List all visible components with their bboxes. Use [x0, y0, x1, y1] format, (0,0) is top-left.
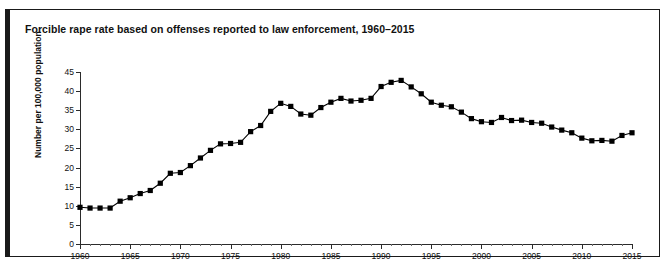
x-tick: [80, 244, 81, 249]
x-tick-minor: [100, 244, 101, 246]
data-point: [469, 116, 474, 121]
data-point: [258, 123, 263, 128]
data-point: [389, 80, 394, 85]
data-series-rape-rate: [80, 72, 632, 244]
data-point: [429, 100, 434, 105]
data-point: [479, 119, 484, 124]
data-point: [278, 101, 283, 106]
x-tick-label: 2005: [522, 252, 541, 261]
x-tick-minor: [572, 244, 573, 246]
figure-container: FIGURE 11 Forcible rape rate based on of…: [0, 0, 666, 262]
x-tick-label: 2015: [623, 252, 642, 261]
data-point: [499, 115, 504, 120]
data-point: [248, 129, 253, 134]
data-point: [569, 130, 574, 135]
x-tick: [331, 244, 332, 249]
data-point: [619, 133, 624, 138]
x-tick: [632, 244, 633, 249]
data-point: [318, 105, 323, 110]
x-tick-minor: [321, 244, 322, 246]
data-point: [358, 98, 363, 103]
data-point: [198, 155, 203, 160]
x-tick-label: 1965: [121, 252, 140, 261]
x-tick-minor: [361, 244, 362, 246]
x-tick-minor: [351, 244, 352, 246]
data-point: [419, 91, 424, 96]
data-point: [328, 100, 333, 105]
x-tick-minor: [110, 244, 111, 246]
y-tick-label: 45: [65, 68, 74, 77]
x-tick-label: 1970: [171, 252, 190, 261]
x-tick-label: 1985: [321, 252, 340, 261]
x-tick-minor: [200, 244, 201, 246]
data-point: [77, 205, 82, 210]
data-point: [539, 121, 544, 126]
data-point: [128, 195, 133, 200]
x-tick-minor: [251, 244, 252, 246]
data-point: [509, 118, 514, 123]
x-axis-line: [80, 244, 632, 245]
x-tick-minor: [612, 244, 613, 246]
x-tick-minor: [190, 244, 191, 246]
y-tick-label: 40: [65, 87, 74, 96]
x-tick-minor: [512, 244, 513, 246]
x-tick: [381, 244, 382, 249]
data-point: [97, 205, 102, 210]
data-point: [368, 96, 373, 101]
data-point: [529, 120, 534, 125]
data-point: [218, 141, 223, 146]
x-tick-label: 1975: [221, 252, 240, 261]
x-tick-minor: [341, 244, 342, 246]
data-point: [178, 170, 183, 175]
chart-title: Forcible rape rate based on offenses rep…: [25, 23, 414, 35]
x-tick-minor: [502, 244, 503, 246]
data-point: [559, 128, 564, 133]
series-markers: [77, 78, 634, 211]
series-line: [80, 80, 632, 208]
left-accent-rule: [6, 10, 10, 256]
y-tick-label: 25: [65, 144, 74, 153]
data-point: [208, 148, 213, 153]
x-tick-minor: [160, 244, 161, 246]
data-point: [519, 118, 524, 123]
x-tick-minor: [562, 244, 563, 246]
x-tick-minor: [261, 244, 262, 246]
x-tick-minor: [622, 244, 623, 246]
data-point: [459, 110, 464, 115]
x-tick: [231, 244, 232, 249]
x-tick: [180, 244, 181, 249]
x-tick: [532, 244, 533, 249]
x-tick-minor: [150, 244, 151, 246]
x-tick: [582, 244, 583, 249]
data-point: [188, 163, 193, 168]
x-tick-minor: [120, 244, 121, 246]
y-tick-label: 5: [69, 221, 74, 230]
x-tick-minor: [542, 244, 543, 246]
data-point: [409, 84, 414, 89]
y-tick-label: 20: [65, 163, 74, 172]
y-tick-label: 0: [69, 240, 74, 249]
data-point: [599, 138, 604, 143]
x-tick-minor: [241, 244, 242, 246]
x-tick-minor: [311, 244, 312, 246]
y-tick-label: 10: [65, 202, 74, 211]
x-tick-minor: [221, 244, 222, 246]
x-tick: [481, 244, 482, 249]
x-tick-label: 2010: [572, 252, 591, 261]
data-point: [228, 141, 233, 146]
x-tick-minor: [592, 244, 593, 246]
data-point: [168, 171, 173, 176]
data-point: [449, 104, 454, 109]
x-tick-minor: [90, 244, 91, 246]
data-point: [108, 205, 113, 210]
x-tick-minor: [401, 244, 402, 246]
data-point: [609, 139, 614, 144]
data-point: [158, 181, 163, 186]
data-point: [138, 191, 143, 196]
x-tick-minor: [291, 244, 292, 246]
x-tick: [130, 244, 131, 249]
x-tick-minor: [170, 244, 171, 246]
data-point: [87, 205, 92, 210]
plot-area: 051015202530354045 196019651970197519801…: [80, 72, 632, 244]
x-tick-minor: [210, 244, 211, 246]
